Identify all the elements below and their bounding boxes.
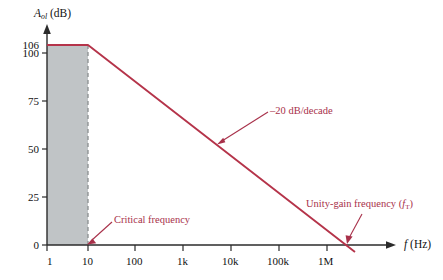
plot-canvas [0, 0, 443, 280]
x-axis-title: f (Hz) [404, 239, 431, 251]
y-axis-arrowhead [43, 24, 51, 34]
x-axis-title-unit: (Hz) [410, 238, 431, 250]
y-tick-label-100: 100 [8, 48, 39, 59]
y-tick-label-0: 0 [8, 240, 39, 251]
critical-frequency-leader [92, 222, 112, 240]
y-tick-label-25: 25 [8, 192, 39, 203]
y-tick-label-75: 75 [8, 96, 39, 107]
unity-gain-frequency-label: Unity-gain frequency (fT) [306, 199, 413, 210]
unity-gain-label-subscript: T [405, 203, 409, 211]
bode-plot-figure: Aol (dB) f (Hz) 106 100 75 50 25 0 1 10 … [0, 0, 443, 280]
y-axis-ticks [42, 53, 47, 245]
unity-gain-arrowhead [346, 235, 353, 244]
y-axis-title-subscript: ol [41, 12, 47, 21]
unity-gain-label-text: Unity-gain frequency ( [306, 198, 402, 209]
slope-annotation-label: –20 dB/decade [270, 106, 333, 117]
shaded-region-midrange [47, 45, 88, 245]
y-axis-title-symbol: A [34, 7, 41, 19]
slope-annotation-arrowhead [217, 138, 225, 145]
y-axis-title: Aol (dB) [34, 8, 71, 20]
y-axis-title-unit: (dB) [50, 7, 71, 19]
open-loop-gain-curve [47, 45, 355, 252]
x-axis-ticks [47, 245, 327, 251]
slope-annotation-leader [222, 112, 268, 141]
y-tick-label-50: 50 [8, 144, 39, 155]
critical-frequency-label: Critical frequency [114, 215, 190, 226]
x-axis-arrowhead [386, 241, 396, 249]
x-axis-title-symbol: f [404, 238, 407, 250]
unity-gain-label-close: ) [410, 198, 414, 209]
unity-gain-leader [349, 214, 362, 238]
